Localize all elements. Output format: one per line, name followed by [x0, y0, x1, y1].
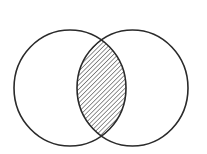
venn-diagram — [0, 0, 207, 154]
